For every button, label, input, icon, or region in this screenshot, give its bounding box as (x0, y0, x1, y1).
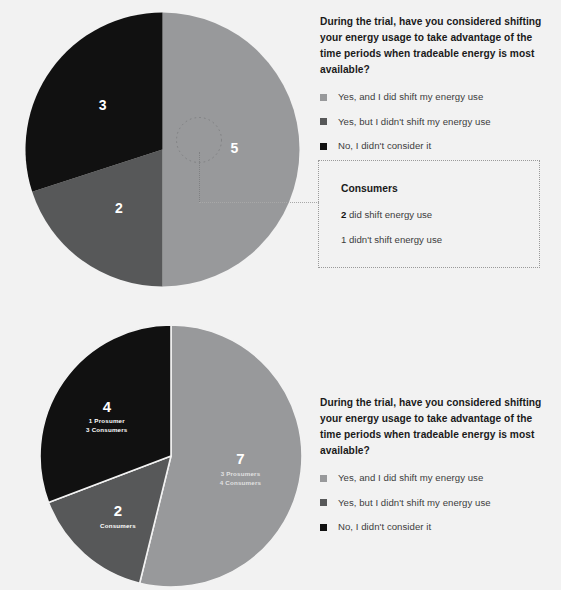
pie-slice-sublabel: 4 Consumers (220, 479, 262, 486)
legend-swatch-light-gray (320, 475, 327, 482)
pie-slice-value: 3 (99, 97, 107, 113)
pie-slice-value: 2 (115, 200, 123, 216)
pie-slice-sublabel: Consumers (100, 522, 136, 529)
legend-top-label-2: No, I didn't consider it (338, 140, 431, 152)
legend-swatch-black (320, 524, 327, 531)
pie-slice-sublabel: 1 Prosumer (89, 417, 125, 424)
pie-slice-sublabel: 3 Prosumers (221, 470, 261, 477)
callout-title: Consumers (341, 183, 539, 194)
legend-swatch-black (320, 143, 327, 150)
callout-leader-vertical (199, 152, 200, 202)
legend-bottom-question: During the trial, have you considered sh… (320, 395, 546, 459)
legend-top-item-2[interactable]: No, I didn't consider it (320, 140, 546, 152)
pie-slice-value: 4 (103, 398, 112, 415)
legend-top-label-0: Yes, and I did shift my energy use (338, 91, 483, 103)
legend-bottom-label-0: Yes, and I did shift my energy use (338, 472, 483, 484)
legend-bottom-item-2[interactable]: No, I didn't consider it (320, 521, 546, 533)
legend-bottom-label-1: Yes, but I didn't shift my energy use (338, 497, 491, 509)
legend-swatch-medium-gray (320, 118, 327, 125)
bottom-pie-chart: 73 Prosumers4 Consumers2Consumers41 Pros… (25, 325, 315, 587)
callout-line-1-text: did shift energy use (346, 209, 432, 220)
callout-leader-horizontal (199, 202, 319, 203)
legend-bottom-item-1[interactable]: Yes, but I didn't shift my energy use (320, 497, 546, 509)
legend-swatch-medium-gray (320, 499, 327, 506)
legend-top-label-1: Yes, but I didn't shift my energy use (338, 116, 491, 128)
legend-top: During the trial, have you considered sh… (320, 14, 546, 165)
pie-slice-sublabel: 3 Consumers (86, 426, 128, 433)
pie-slice-value: 7 (236, 450, 244, 467)
legend-top-question: During the trial, have you considered sh… (320, 14, 546, 78)
callout-line-1: 2 did shift energy use (341, 209, 539, 221)
pie-slice-value: 5 (231, 140, 239, 156)
callout-line-2-text: didn't shift energy use (346, 234, 442, 245)
top-pie-chart: 523 (25, 12, 300, 287)
legend-swatch-light-gray (320, 94, 327, 101)
legend-bottom: During the trial, have you considered sh… (320, 395, 546, 546)
pie-slice-value: 2 (114, 502, 122, 519)
legend-top-item-1[interactable]: Yes, but I didn't shift my energy use (320, 116, 546, 128)
callout-box: Consumers 2 did shift energy use 1 didn'… (318, 160, 540, 268)
legend-top-item-0[interactable]: Yes, and I did shift my energy use (320, 91, 546, 103)
callout-line-2: 1 didn't shift energy use (341, 234, 539, 246)
legend-bottom-item-0[interactable]: Yes, and I did shift my energy use (320, 472, 546, 484)
legend-bottom-label-2: No, I didn't consider it (338, 521, 431, 533)
